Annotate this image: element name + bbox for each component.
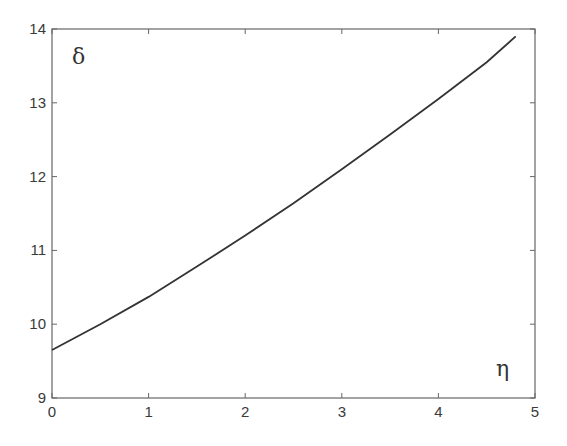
x-tick-label: 2 [241, 403, 249, 420]
line-chart: 012345 91011121314 δ η [0, 0, 567, 446]
x-tick-label: 3 [338, 403, 346, 420]
y-tick-label: 11 [30, 241, 46, 258]
x-axis-label: η [496, 356, 509, 381]
x-tick-label: 0 [48, 403, 56, 420]
y-tick-label: 14 [29, 20, 46, 37]
x-tick-label: 1 [144, 403, 152, 420]
x-tick-label: 4 [434, 403, 442, 420]
y-axis-ticks: 91011121314 [29, 20, 535, 406]
x-axis-ticks: 012345 [48, 29, 539, 420]
y-axis-label: δ [72, 44, 85, 69]
y-tick-label: 12 [29, 168, 46, 185]
y-tick-label: 10 [29, 315, 46, 332]
data-line [52, 36, 516, 350]
x-tick-label: 5 [531, 403, 539, 420]
plot-frame [52, 29, 535, 398]
y-tick-label: 13 [29, 94, 46, 111]
y-tick-label: 9 [38, 389, 46, 406]
